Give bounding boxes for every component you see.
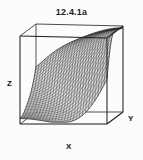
axis-label-z: Z (7, 79, 12, 88)
figure-3d-surface-plot: 12.4.1a (0, 0, 143, 160)
axis-label-y: Y (128, 114, 133, 123)
axis-label-x: X (66, 142, 71, 151)
surface-plot-canvas (0, 0, 143, 160)
wireframe-surface (20, 28, 123, 123)
